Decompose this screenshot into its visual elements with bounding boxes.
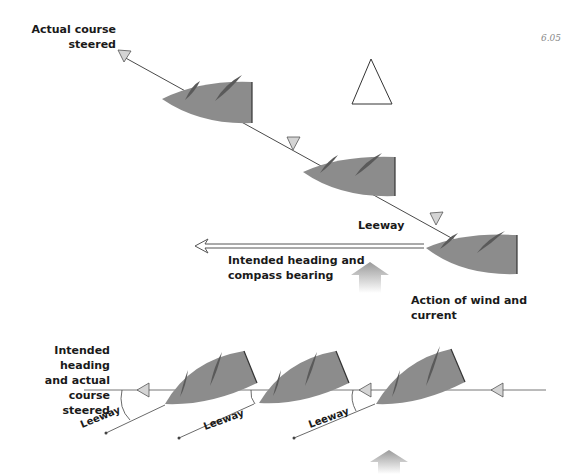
wind-arrow-icon [370, 450, 408, 474]
label-line: compass bearing [228, 268, 365, 283]
leeway-label: Leeway [307, 405, 351, 430]
heading-arrowhead-icon [137, 383, 149, 397]
course-arrowhead-icon [430, 212, 443, 225]
boat-icon [426, 231, 517, 274]
boat-icon [162, 75, 252, 123]
label-line: steered [20, 37, 116, 52]
compass-triangle-icon [352, 59, 392, 104]
intended-actual-course-label: Intended heading and actual course steer… [4, 343, 110, 418]
label-line: steered [4, 403, 110, 418]
label-line: Actual course [20, 22, 116, 37]
leeway-angle-arc [251, 390, 255, 404]
leeway-label: Leeway [202, 407, 246, 432]
boat-icon [165, 351, 257, 404]
leeway-angle-arc [121, 390, 130, 420]
figure-number: 6.05 [541, 33, 561, 43]
intended-heading-label: Intended heading and compass bearing [228, 253, 365, 283]
label-line: Intended heading and [228, 253, 365, 268]
label-line: current [411, 308, 527, 323]
heading-arrowhead-icon [491, 383, 503, 397]
leeway-label-top: Leeway [358, 218, 404, 233]
heading-arrowhead-icon [359, 383, 371, 397]
intended-heading-arrow [195, 239, 424, 253]
boat-icon [376, 346, 465, 404]
boat-icon [259, 351, 349, 403]
actual-course-label: Actual course steered [20, 22, 116, 52]
boat-icon [303, 153, 395, 196]
actual-course-line [122, 56, 455, 240]
action-wind-current-label: Action of wind and current [411, 293, 527, 323]
label-line: and actual course [4, 373, 110, 403]
leeway-angle-arc [352, 390, 356, 411]
label-line: Action of wind and [411, 293, 527, 308]
label-line: Intended heading [4, 343, 110, 373]
